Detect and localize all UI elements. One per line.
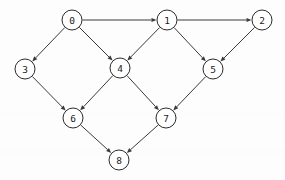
graph-node-5[interactable]: 5 [203,59,223,79]
graph-edge-0-3 [36,28,65,58]
graph-edge-4-7 [127,76,155,107]
graph-edge-7-8 [131,125,159,150]
graph-node-8[interactable]: 8 [109,150,129,170]
graph-edge-4-6 [84,76,113,107]
graph-node-6[interactable]: 6 [63,108,83,128]
graph-svg-surface: 012345678 [0,0,285,180]
graph-node-3[interactable]: 3 [15,59,35,79]
graph-node-4[interactable]: 4 [110,58,130,78]
node-label-8: 8 [116,155,122,166]
graph-edge-5-7 [177,77,206,107]
graph-node-0[interactable]: 0 [62,10,82,30]
node-label-4: 4 [117,63,123,74]
node-label-3: 3 [22,64,28,75]
graph-edge-0-4 [79,27,109,57]
graph-node-1[interactable]: 1 [157,10,177,30]
graph-node-2[interactable]: 2 [252,10,272,30]
edges-layer [32,18,254,153]
node-label-0: 0 [69,15,75,26]
graph-edge-1-5 [174,28,202,58]
node-label-5: 5 [210,64,216,75]
nodes-layer: 012345678 [15,10,272,170]
node-label-1: 1 [164,15,170,26]
arrowhead-1-2 [247,18,252,22]
arrowhead-0-1 [152,18,157,22]
node-label-7: 7 [163,113,169,124]
graph-edge-2-5 [224,27,255,58]
node-label-6: 6 [70,113,76,124]
graph-edge-3-6 [32,77,62,107]
graph-edge-1-4 [131,28,160,57]
graph-edge-6-8 [81,125,108,149]
node-label-2: 2 [259,15,265,26]
graph-diagram: 012345678 [0,0,285,180]
graph-node-7[interactable]: 7 [156,108,176,128]
